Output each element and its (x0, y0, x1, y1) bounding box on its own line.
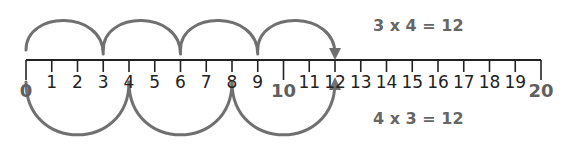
top-jump-arc-3-to-6 (103, 21, 180, 54)
number-label-18: 18 (479, 74, 501, 91)
number-label-4: 4 (124, 74, 135, 91)
number-label-9: 9 (252, 74, 263, 91)
bottom-equation: 4 x 3 = 12 (373, 111, 464, 127)
number-line-diagram: 01234567891011121314151617181920 3 x 4 =… (0, 0, 574, 149)
number-label-7: 7 (201, 74, 212, 91)
number-label-20: 20 (528, 82, 553, 100)
number-label-12: 12 (324, 74, 346, 91)
number-label-6: 6 (175, 74, 186, 91)
number-label-13: 13 (350, 74, 372, 91)
number-label-1: 1 (46, 74, 57, 91)
top-jump-arcs (26, 21, 335, 54)
top-jump-arc-6-to-9 (181, 21, 258, 54)
arrow-down-icon (329, 48, 341, 60)
number-label-2: 2 (72, 74, 83, 91)
number-label-3: 3 (98, 74, 109, 91)
number-label-14: 14 (376, 74, 398, 91)
top-jump-arc-0-to-3 (26, 21, 103, 54)
number-label-16: 16 (427, 74, 449, 91)
number-label-8: 8 (227, 74, 238, 91)
top-jump-arc-9-to-12 (258, 21, 335, 54)
number-label-19: 19 (504, 74, 526, 91)
number-label-10: 10 (271, 82, 296, 100)
number-label-11: 11 (298, 74, 320, 91)
top-equation: 3 x 4 = 12 (373, 18, 464, 34)
number-label-17: 17 (453, 74, 475, 91)
number-label-5: 5 (149, 74, 160, 91)
number-label-15: 15 (401, 74, 423, 91)
number-label-0: 0 (20, 82, 33, 100)
